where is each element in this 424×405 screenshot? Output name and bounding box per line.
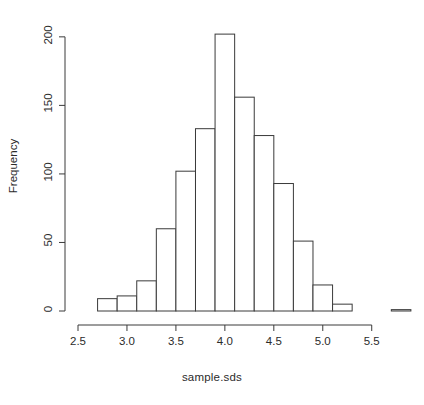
y-axis-tick-label: 200	[42, 15, 54, 55]
y-axis-tick-label: 50	[42, 220, 54, 260]
x-axis-tick-label: 5.5	[352, 335, 392, 347]
histogram-bar	[313, 285, 333, 311]
histogram-bars	[98, 34, 411, 311]
x-axis-tick-label: 2.5	[58, 335, 98, 347]
histogram-bar	[195, 129, 215, 311]
x-axis-tick-label: 4.5	[254, 335, 294, 347]
histogram-plot: 050100150200 2.53.03.54.04.55.05.5 Frequ…	[0, 0, 424, 405]
y-axis-title: Frequency	[7, 106, 19, 226]
histogram-bar	[137, 281, 157, 311]
histogram-bar	[156, 229, 176, 311]
y-axis-tick-label: 0	[42, 289, 54, 329]
histogram-bar	[117, 296, 137, 311]
histogram-bar	[235, 97, 255, 311]
histogram-bar	[333, 304, 353, 311]
histogram-bar	[176, 171, 196, 311]
y-axis-tick-label: 150	[42, 83, 54, 123]
x-axis-tick-label: 4.0	[205, 335, 245, 347]
histogram-bar	[215, 34, 235, 311]
histogram-bar	[274, 184, 294, 311]
x-axis-tick-label: 3.0	[107, 335, 147, 347]
histogram-bar	[254, 136, 274, 311]
histogram-bar	[293, 241, 313, 311]
x-axis-tick-label: 5.0	[303, 335, 343, 347]
histogram-bar	[98, 299, 118, 311]
y-axis-tick-label: 100	[42, 152, 54, 192]
histogram-bar	[391, 310, 411, 311]
x-axis-tick-label: 3.5	[156, 335, 196, 347]
x-axis-title: sample.sds	[0, 371, 424, 383]
